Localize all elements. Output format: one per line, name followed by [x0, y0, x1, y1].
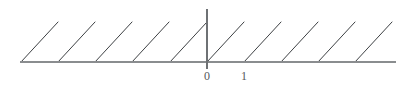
sawtooth-ramp-segment	[132, 22, 169, 62]
sawtooth-ramp-segment	[58, 22, 95, 62]
sawtooth-ramp-segment	[95, 22, 132, 62]
sawtooth-ramp-segment	[170, 22, 207, 62]
sawtooth-ramp-segment	[355, 22, 392, 62]
sawtooth-plot-figure: 0 1	[0, 0, 415, 93]
sawtooth-ramp-segment	[244, 22, 281, 62]
sawtooth-ramp-segment	[318, 22, 355, 62]
tick-label-1: 1	[236, 70, 252, 82]
sawtooth-ramp-segment	[207, 22, 244, 62]
tick-label-0: 0	[199, 70, 215, 82]
sawtooth-ramp-segment	[21, 22, 58, 62]
sawtooth-ramp-segment	[281, 22, 318, 62]
